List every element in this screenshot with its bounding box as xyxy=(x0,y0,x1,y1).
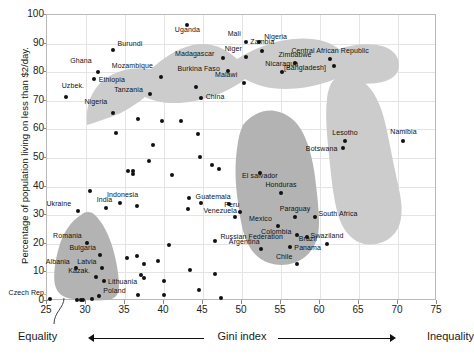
data-point-labeled xyxy=(233,215,237,219)
country-label: Lesotho xyxy=(332,129,358,137)
data-point-labeled xyxy=(313,215,317,219)
data-point xyxy=(210,163,214,167)
data-point-labeled xyxy=(199,96,203,100)
data-point xyxy=(135,254,139,258)
data-point-labeled xyxy=(343,139,347,143)
x-tick-label: 55 xyxy=(265,304,295,315)
data-point xyxy=(188,268,192,272)
y-tick-label: 40 xyxy=(18,180,44,191)
data-point-labeled xyxy=(279,191,283,195)
gridline-vertical xyxy=(320,15,321,299)
country-label: Mexico xyxy=(249,215,272,223)
data-point-labeled xyxy=(76,209,80,213)
data-point-labeled xyxy=(148,92,152,96)
data-point xyxy=(217,167,221,171)
country-label: Russian Federation xyxy=(220,233,283,241)
data-point xyxy=(170,173,174,177)
data-point-labeled xyxy=(111,111,115,115)
plot-area: Uzbek.GhanaEthiopiaBurundiNigeriaMozambi… xyxy=(46,14,436,300)
data-point xyxy=(213,272,217,276)
slovenia-callout-leader xyxy=(46,296,106,326)
x-tick-mark xyxy=(280,300,281,304)
x-tick-label: 40 xyxy=(148,304,178,315)
data-point xyxy=(179,119,183,123)
data-point-labeled xyxy=(401,139,405,143)
country-label: [Bangladesh] xyxy=(284,64,326,72)
data-point-labeled xyxy=(94,275,98,279)
x-tick-label: 70 xyxy=(382,304,412,315)
x-tick-mark xyxy=(397,300,398,304)
data-point xyxy=(142,276,146,280)
data-point xyxy=(196,132,200,136)
country-label: Tanzania xyxy=(114,86,143,94)
x-axis-title: Gini index xyxy=(46,330,438,342)
y-tick-label: 70 xyxy=(18,94,44,105)
x-tick-mark xyxy=(436,300,437,304)
data-point-labeled xyxy=(102,279,106,283)
country-label: Chile xyxy=(276,253,292,261)
country-label: Zambia xyxy=(250,38,274,46)
gridline-horizontal xyxy=(47,272,435,273)
right-arrow-line xyxy=(278,338,390,339)
data-point-labeled xyxy=(244,55,248,59)
data-point-labeled xyxy=(111,48,115,52)
data-point-labeled xyxy=(64,95,68,99)
data-point-labeled xyxy=(104,206,108,210)
data-point xyxy=(147,159,151,163)
data-point-labeled xyxy=(213,239,217,243)
x-tick-label: 60 xyxy=(304,304,334,315)
gridline-horizontal xyxy=(47,187,435,188)
data-point xyxy=(162,293,166,297)
data-point-labeled xyxy=(328,57,332,61)
data-point xyxy=(186,207,190,211)
x-tick-label: 50 xyxy=(226,304,256,315)
x-tick-mark xyxy=(358,300,359,304)
country-label: Central African Republic xyxy=(291,47,369,55)
data-point-labeled xyxy=(159,75,163,79)
data-point-labeled xyxy=(98,253,102,257)
x-tick-mark xyxy=(319,300,320,304)
gridline-vertical xyxy=(242,15,243,299)
data-point xyxy=(136,293,140,297)
gridline-vertical xyxy=(164,15,165,299)
country-label: El salvador xyxy=(242,172,278,180)
data-point-labeled xyxy=(288,245,292,249)
country-label: Poland xyxy=(103,287,125,295)
y-tick-label: 80 xyxy=(18,65,44,76)
data-point-labeled xyxy=(242,81,246,85)
y-axis-ticks: 0102030405060708090100 xyxy=(14,14,44,300)
country-label: Uganda xyxy=(175,26,200,34)
y-tick-label: 60 xyxy=(18,122,44,133)
x-tick-label: 65 xyxy=(343,304,373,315)
country-label: Mali xyxy=(228,30,241,38)
data-point-labeled xyxy=(259,247,263,251)
data-point-labeled xyxy=(341,146,345,150)
country-label: Ukraine xyxy=(46,200,71,208)
country-label: Panama xyxy=(294,244,321,252)
country-label: Albania xyxy=(46,258,70,266)
right-arrow-icon xyxy=(390,334,396,342)
gridline-vertical xyxy=(398,15,399,299)
country-label: Paraguay xyxy=(280,205,311,213)
y-tick-label: 100 xyxy=(18,8,44,19)
data-point-labeled xyxy=(295,262,299,266)
gridline-horizontal xyxy=(47,158,435,159)
data-point xyxy=(142,262,146,266)
data-point xyxy=(114,131,118,135)
data-point xyxy=(156,259,160,263)
data-point-labeled xyxy=(260,49,264,53)
data-point-labeled xyxy=(276,224,280,228)
left-arrow-line xyxy=(94,338,204,339)
country-label: Nigeria xyxy=(84,98,107,106)
data-point xyxy=(198,155,202,159)
country-label: Honduras xyxy=(265,181,296,189)
data-point xyxy=(187,196,191,200)
data-point xyxy=(167,243,171,247)
data-point xyxy=(88,189,92,193)
data-point xyxy=(194,85,198,89)
country-label: Mozambique xyxy=(112,62,153,70)
country-label: South Africa xyxy=(319,210,358,218)
country-label: Niger xyxy=(225,45,242,53)
gridline-horizontal xyxy=(47,129,435,130)
data-point xyxy=(151,143,155,147)
